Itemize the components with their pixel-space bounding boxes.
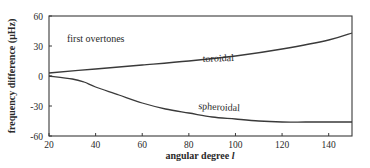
plot-curves: toroidalspheroidal (49, 33, 352, 122)
y-tick-label: -30 (30, 102, 43, 112)
x-tick-label: 20 (44, 140, 54, 150)
y-tick-label: -60 (30, 132, 43, 142)
curve-label-spheroidal: spheroidal (198, 100, 240, 113)
x-tick-label: 100 (228, 140, 243, 150)
curve-label-toroidal: toroidal (203, 52, 235, 64)
x-tick-label: 140 (322, 140, 337, 150)
y-tick-label: 30 (34, 42, 44, 52)
y-tick-label: 0 (38, 72, 43, 82)
y-tick-label: 60 (34, 12, 44, 22)
chart-annotation: first overtones (67, 33, 125, 44)
x-tick-label: 120 (275, 140, 290, 150)
y-axis-label: frequency difference (μHz) (6, 19, 18, 134)
x-tick-label: 80 (184, 140, 194, 150)
x-tick-label: 60 (137, 140, 147, 150)
x-tick-label: 40 (91, 140, 101, 150)
curve-spheroidal (49, 76, 352, 122)
x-axis-label: angular degree l (165, 150, 234, 161)
chart: 60300-30-60 20406080100120140 toroidalsp… (0, 0, 370, 168)
